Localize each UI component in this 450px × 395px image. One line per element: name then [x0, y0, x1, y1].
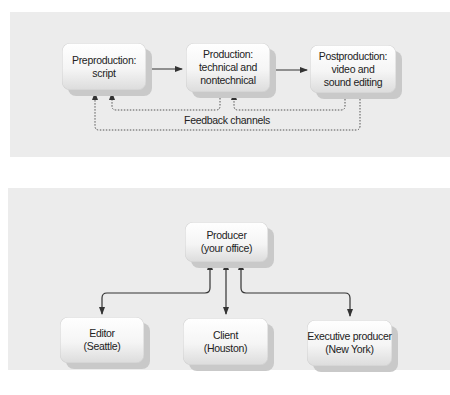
node-client-line-1: Client: [213, 329, 238, 342]
node-executive-producer-line-2: (New York): [325, 343, 373, 356]
node-editor: Editor (Seattle): [60, 317, 144, 363]
node-client: Client (Houston): [183, 318, 268, 365]
node-editor-line-1: Editor: [89, 327, 115, 340]
node-editor-line-2: (Seattle): [84, 340, 121, 353]
node-client-line-2: (Houston): [204, 342, 247, 355]
node-producer-line-1: Producer: [206, 229, 246, 242]
node-executive-producer-line-1: Executive producer: [307, 330, 391, 343]
node-executive-producer: Executive producer (New York): [307, 320, 392, 366]
node-producer-line-2: (your office): [201, 242, 252, 255]
node-producer: Producer (your office): [185, 222, 268, 262]
